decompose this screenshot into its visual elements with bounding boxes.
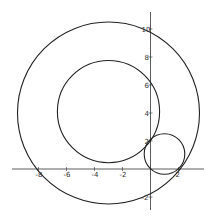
circles-plot: -8-6-4-22-2246810 bbox=[0, 0, 215, 223]
circles bbox=[18, 22, 200, 204]
large-circle bbox=[18, 22, 200, 204]
y-tick-label: 8 bbox=[145, 54, 149, 62]
x-tick-label: -4 bbox=[92, 171, 100, 179]
x-tick-label: -2 bbox=[120, 171, 127, 179]
x-tick-label: 2 bbox=[176, 171, 180, 179]
y-tick-label: -2 bbox=[142, 194, 149, 202]
x-tick-label: -8 bbox=[36, 171, 43, 179]
y-tick-label: 2 bbox=[145, 138, 149, 146]
x-tick-label: -6 bbox=[64, 171, 72, 179]
axes bbox=[12, 12, 204, 210]
y-tick-label: 10 bbox=[142, 26, 151, 34]
y-tick-label: 6 bbox=[145, 82, 150, 90]
y-tick-label: 4 bbox=[145, 110, 150, 118]
